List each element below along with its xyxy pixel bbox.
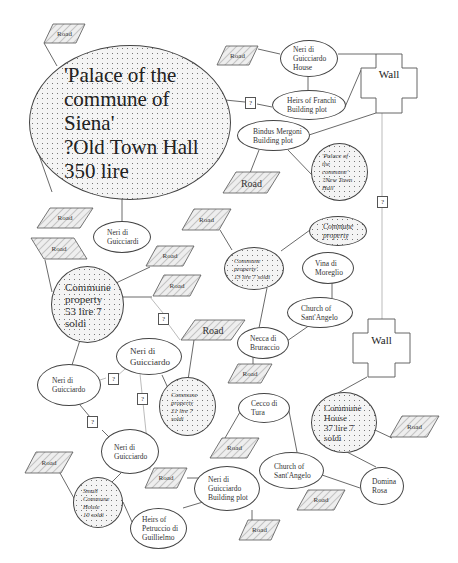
node-label: Commune property 21 lire 7 soldi bbox=[171, 391, 197, 423]
node-label: Domina Rosa bbox=[372, 477, 396, 495]
road-left-2[interactable]: Road bbox=[30, 237, 88, 260]
road-label: Road bbox=[216, 52, 259, 60]
node-label: Necca di Bruraccio bbox=[250, 334, 280, 352]
node-neri-di-guicciardi[interactable]: Neri di Guicciardi bbox=[93, 221, 151, 253]
road-label: Road bbox=[222, 177, 281, 188]
road-label: Road bbox=[180, 325, 246, 336]
road-left-1[interactable]: Road bbox=[36, 207, 94, 229]
road-label: Road bbox=[30, 245, 88, 253]
node-small-commune-house[interactable]: Small Commune House 10 soldi bbox=[73, 477, 123, 528]
node-neri-guicciardo-house[interactable]: Neri di Guicciardo House bbox=[280, 40, 338, 77]
road-label: Road bbox=[152, 282, 202, 290]
road-center-2[interactable]: Road bbox=[152, 274, 202, 297]
road-cecco[interactable]: Road bbox=[209, 437, 260, 459]
node-commune-house-37[interactable]: Commune House 37 lire 7 soldi bbox=[311, 392, 377, 453]
unknown-box-center[interactable]: ? bbox=[137, 393, 148, 405]
node-label: Neri di Guicciardo bbox=[114, 443, 147, 461]
road-label: Road bbox=[181, 216, 232, 224]
node-label: Heirs of Petruccio di Guillielmo bbox=[142, 515, 178, 542]
road-top-right[interactable]: Road bbox=[216, 45, 259, 66]
road-commune-house[interactable]: Road bbox=[389, 415, 440, 438]
node-label: Neri di Guicciardo House bbox=[293, 45, 326, 72]
unknown-box-neri-left[interactable]: ? bbox=[108, 373, 119, 385]
road-middle-big[interactable]: Road bbox=[180, 319, 246, 341]
wall-label: Wall bbox=[360, 68, 418, 80]
wall-bottom[interactable]: Wall bbox=[352, 318, 411, 378]
node-label: Commune property 53 lire 7 soldi bbox=[65, 281, 111, 329]
node-label: Commune House 37 lire 7 soldi bbox=[324, 403, 362, 443]
node-label: Commune property' 13 lire 7 soldi bbox=[234, 257, 270, 281]
node-commune-property-13[interactable]: Commune property' 13 lire 7 soldi bbox=[224, 247, 284, 290]
node-commune-property-53[interactable]: Commune property 53 lire 7 soldi bbox=[51, 266, 124, 343]
road-lower-middle[interactable]: Road bbox=[144, 467, 188, 489]
node-label: Heirs of Franchi Building plot bbox=[287, 96, 336, 114]
road-lower-left[interactable]: Road bbox=[24, 451, 74, 474]
node-palace-old-town-hall[interactable]: 'Palace of the commune of Siena' ?Old To… bbox=[29, 45, 231, 200]
road-label: Road bbox=[227, 370, 273, 378]
node-domina-rosa[interactable]: Domina Rosa bbox=[360, 467, 404, 505]
node-bindus-mergoni[interactable]: Bindus Mergoni Building plot bbox=[237, 120, 310, 151]
unknown-box-commune-53[interactable]: ? bbox=[158, 313, 169, 325]
node-label: Church of Sant'Angelo bbox=[274, 462, 311, 480]
node-church-sant-angelo-2[interactable]: Church of Sant'Angelo bbox=[259, 452, 324, 489]
node-neri-building-plot[interactable]: Neri di Guicciardo Building plot bbox=[194, 466, 260, 511]
road-center-1[interactable]: Road bbox=[145, 245, 195, 267]
node-neri-di-guicciardo-center[interactable]: Neri di Guicciardo bbox=[116, 338, 182, 375]
node-commune-property-small[interactable]: Commune property bbox=[309, 216, 367, 246]
road-bindus[interactable]: Road bbox=[222, 171, 281, 194]
node-palace-new-town-hall[interactable]: 'Palace of the commune' ?New Town Hall bbox=[311, 143, 368, 201]
unknown-box-wall[interactable]: ? bbox=[377, 196, 388, 208]
road-label: Road bbox=[24, 459, 74, 467]
wall-top[interactable]: Wall bbox=[360, 53, 418, 114]
road-upper-middle[interactable]: Road bbox=[181, 208, 232, 231]
road-label: Road bbox=[209, 444, 260, 452]
road-label: Road bbox=[389, 423, 440, 431]
road-necca[interactable]: Road bbox=[227, 363, 273, 384]
node-heirs-of-franchi[interactable]: Heirs of Franchi Building plot bbox=[272, 90, 346, 120]
node-label: 'Palace of the commune' ?New Town Hall bbox=[322, 152, 352, 192]
node-label: Neri di Guicciardi bbox=[107, 228, 139, 246]
node-vina-di-moreglio[interactable]: Vina di Moreglio bbox=[302, 252, 354, 284]
node-neri-di-guicciardo-left[interactable]: Neri di Guicciardo bbox=[37, 364, 101, 406]
node-label: 'Palace of the commune of Siena' ?Old To… bbox=[64, 63, 199, 183]
node-label: Church of Sant'Angelo bbox=[301, 304, 338, 322]
unknown-box-lower[interactable]: ? bbox=[87, 416, 98, 428]
node-label: Small Commune House 10 soldi bbox=[83, 487, 109, 519]
road-label: Road bbox=[296, 496, 346, 504]
road-label: Road bbox=[36, 214, 94, 222]
road-label: Road bbox=[145, 252, 195, 260]
node-commune-property-21[interactable]: Commune property 21 lire 7 soldi bbox=[159, 377, 216, 436]
road-church-2[interactable]: Road bbox=[296, 489, 346, 511]
node-label: Neri di Guicciardo bbox=[130, 346, 170, 368]
node-label: Bindus Mergoni Building plot bbox=[253, 127, 302, 145]
road-label: Road bbox=[43, 30, 86, 38]
road-top-left[interactable]: Road bbox=[43, 23, 86, 44]
node-label: Neri di Guicciardo Building plot bbox=[208, 475, 248, 502]
node-label: Cecco di Tura bbox=[251, 399, 277, 417]
node-label: Vina di Moreglio bbox=[315, 259, 343, 277]
node-cecco-di-tura[interactable]: Cecco di Tura bbox=[238, 393, 290, 423]
node-heirs-of-petruccio[interactable]: Heirs of Petruccio di Guillielmo bbox=[130, 508, 187, 549]
node-church-sant-angelo-1[interactable]: Church of Sant'Angelo bbox=[287, 297, 353, 328]
road-label: Road bbox=[238, 526, 281, 534]
node-label: Commune property bbox=[323, 222, 353, 240]
unknown-box-palace[interactable]: ? bbox=[245, 97, 256, 109]
node-label: Neri di Guicciardo bbox=[52, 376, 85, 394]
wall-label: Wall bbox=[352, 334, 411, 346]
road-label: Road bbox=[144, 474, 188, 482]
road-bottom[interactable]: Road bbox=[238, 519, 281, 541]
